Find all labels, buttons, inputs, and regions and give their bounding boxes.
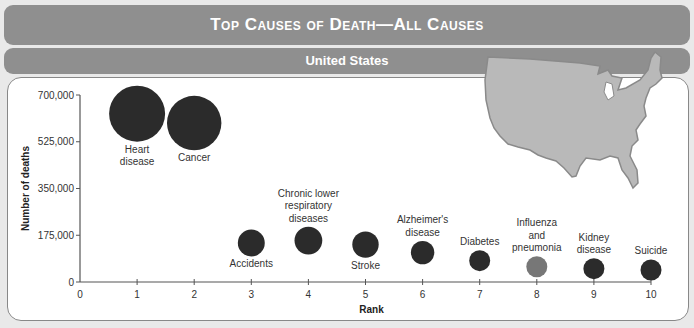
bubble-rank-6 [411,241,434,264]
x-axis-label: Rank [359,304,384,315]
bubble-label: Diabetes [460,236,499,247]
bubble-label: pneumonia [512,242,562,253]
x-tick-label: 8 [534,289,540,300]
x-tick-label: 7 [477,289,483,300]
bubble-rank-3 [238,230,265,257]
x-tick-label: 2 [191,289,197,300]
bubble-rank-1 [109,86,165,142]
bubble-rank-2 [167,96,221,150]
bubble-rank-10 [641,259,662,280]
bubble-rank-5 [352,231,378,257]
bubble-label: and [528,230,545,241]
y-tick-label: 0 [68,277,74,288]
bubble-label: disease [577,244,612,255]
y-tick-label: 525,000 [38,136,75,147]
bubble-rank-4 [295,227,323,255]
bubble-label: Kidney [579,232,610,243]
bubble-label: Heart [125,144,150,155]
bubble-label: Cancer [178,152,211,163]
x-tick-label: 5 [363,289,369,300]
bubble-rank-8 [526,256,547,277]
y-axis-label: Number of deaths [20,146,31,231]
bubble-label: Chronic lower [278,188,340,199]
bubble-label: Accidents [230,258,273,269]
bubble-label: diseases [289,213,328,224]
x-tick-label: 6 [420,289,426,300]
bubble-label: Suicide [635,245,668,256]
bubble-chart: 0123456789100175,000350,000525,000700,00… [0,0,694,328]
bubble-label: Alzheimer's [397,214,448,225]
x-tick-label: 4 [306,289,312,300]
bubble-rank-7 [469,250,490,271]
y-tick-label: 175,000 [38,230,75,241]
bubble-label: Stroke [351,260,380,271]
x-tick-label: 1 [134,289,140,300]
y-tick-label: 350,000 [38,183,75,194]
bubble-label: disease [405,227,440,238]
x-tick-label: 0 [77,289,83,300]
x-tick-label: 9 [591,289,597,300]
y-tick-label: 700,000 [38,90,75,101]
x-tick-label: 3 [249,289,255,300]
bubble-label: respiratory [285,200,332,211]
bubble-label: disease [120,156,155,167]
bubble-label: Influenza [517,217,558,228]
x-tick-label: 10 [645,289,657,300]
bubble-rank-9 [583,258,604,279]
